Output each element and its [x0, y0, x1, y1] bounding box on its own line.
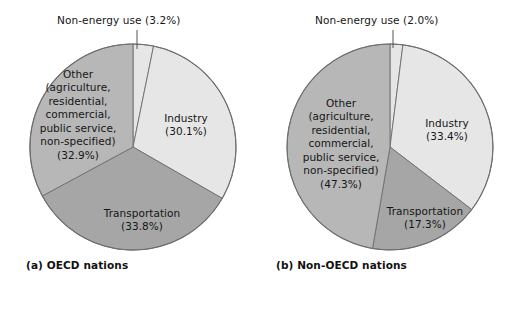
- callout-label-non-energy-b: Non-energy use (2.0%): [315, 14, 439, 26]
- panel-caption-a: (a) OECD nations: [26, 259, 128, 271]
- callout-label-non-energy-a: Non-energy use (3.2%): [57, 14, 181, 26]
- slice-label-other-name-a: Other: [25, 68, 131, 81]
- slice-label-other-b: Other (agriculture, residential, commerc…: [285, 97, 397, 191]
- slice-label-transportation-value-b: (17.3%): [363, 218, 487, 231]
- slice-label-other-detail5-a: non-specified): [25, 135, 131, 148]
- slice-label-other-detail1-b: (agriculture,: [285, 110, 397, 123]
- slice-label-transportation-value-a: (33.8%): [80, 220, 204, 233]
- pie-panel-non-oecd: Non-energy use (2.0%) Industry (33.4%) T…: [259, 0, 517, 315]
- slice-label-industry-a: Industry (30.1%): [140, 112, 232, 139]
- slice-label-transportation-name-a: Transportation: [80, 207, 204, 220]
- slice-label-other-value-a: (32.9%): [25, 149, 131, 162]
- slice-label-other-detail5-b: non-specified): [285, 164, 397, 177]
- slice-label-other-name-b: Other: [285, 97, 397, 110]
- slice-label-transportation-a: Transportation (33.8%): [80, 207, 204, 234]
- slice-label-industry-value-b: (33.4%): [401, 130, 493, 143]
- slice-label-other-detail4-b: public service,: [285, 151, 397, 164]
- slice-label-industry-value-a: (30.1%): [140, 125, 232, 138]
- slice-label-other-a: Other (agriculture, residential, commerc…: [25, 68, 131, 162]
- energy-use-pie-figure: Non-energy use (3.2%) Industry (30.1%) T…: [0, 0, 517, 315]
- slice-label-industry-name-a: Industry: [140, 112, 232, 125]
- panel-caption-b: (b) Non-OECD nations: [276, 259, 407, 271]
- slice-label-other-value-b: (47.3%): [285, 178, 397, 191]
- slice-label-other-detail3-b: commercial,: [285, 137, 397, 150]
- slice-label-other-detail3-a: commercial,: [25, 108, 131, 121]
- slice-label-transportation-b: Transportation (17.3%): [363, 205, 487, 232]
- slice-label-industry-name-b: Industry: [401, 117, 493, 130]
- slice-label-transportation-name-b: Transportation: [363, 205, 487, 218]
- slice-label-other-detail2-b: residential,: [285, 124, 397, 137]
- pie-panel-oecd: Non-energy use (3.2%) Industry (30.1%) T…: [0, 0, 258, 315]
- slice-label-other-detail4-a: public service,: [25, 122, 131, 135]
- slice-label-other-detail2-a: residential,: [25, 95, 131, 108]
- slice-label-other-detail1-a: (agriculture,: [25, 81, 131, 94]
- slice-label-industry-b: Industry (33.4%): [401, 117, 493, 144]
